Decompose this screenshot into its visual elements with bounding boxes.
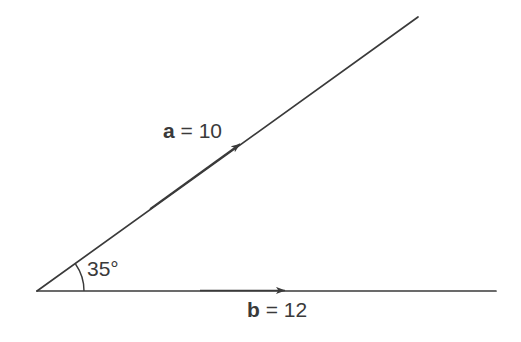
vector-a-name: a (163, 119, 175, 142)
vector-a-arrowhead (150, 144, 240, 209)
angle-arc (76, 264, 85, 291)
vector-b-value: = 12 (260, 298, 307, 321)
vector-a-value: = 10 (175, 119, 222, 142)
vector-diagram-svg (0, 0, 521, 342)
vector-b-name: b (247, 298, 260, 321)
figure-canvas: a = 10 b = 12 35° (0, 0, 521, 342)
vector-b-label: b = 12 (247, 299, 307, 320)
angle-label: 35° (87, 258, 119, 279)
vector-a-label: a = 10 (163, 120, 222, 141)
